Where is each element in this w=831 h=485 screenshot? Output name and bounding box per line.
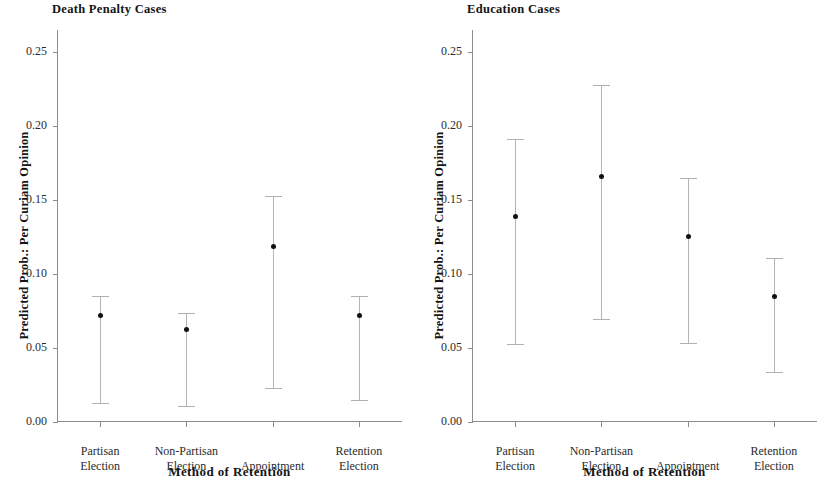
- point-estimate: [184, 327, 189, 332]
- y-axis-label: Predicted Prob.: Per Curiam Opinion: [432, 116, 447, 356]
- y-axis-tick-label: 0.15: [441, 192, 462, 207]
- x-axis-tick: [100, 422, 101, 427]
- y-axis-tick: 0.00: [53, 422, 58, 423]
- y-axis-tick: 0.20: [53, 126, 58, 127]
- y-axis-tick-label: 0.05: [441, 340, 462, 355]
- y-axis-tick: 0.20: [468, 126, 473, 127]
- error-bar: [100, 296, 101, 404]
- point-estimate: [686, 234, 691, 239]
- x-axis-tick: [601, 422, 602, 427]
- error-bar-cap-upper: [766, 258, 783, 259]
- y-axis-tick-label: 0.20: [441, 118, 462, 133]
- panel-title: Death Penalty Cases: [0, 2, 467, 17]
- error-bar: [688, 178, 689, 344]
- error-bar-cap-upper: [507, 139, 524, 140]
- x-axis-tick-label-line1: Non-Partisan: [546, 444, 656, 459]
- point-estimate: [513, 214, 518, 219]
- point-estimate: [98, 313, 103, 318]
- plot-area: 0.000.050.100.150.200.25PartisanElection…: [472, 30, 817, 422]
- y-axis-tick-label: 0.20: [26, 118, 47, 133]
- point-estimate: [271, 244, 276, 249]
- x-axis-tick-label-line1: Retention: [304, 444, 414, 459]
- y-axis-tick: 0.05: [53, 348, 58, 349]
- panel-1: Death Penalty CasesPredicted Prob.: Per …: [0, 0, 415, 485]
- error-bar-cap-lower: [351, 400, 368, 401]
- panel-title: Education Cases: [415, 2, 831, 17]
- error-bar: [601, 85, 602, 320]
- y-axis-tick: 0.05: [468, 348, 473, 349]
- y-axis-tick-label: 0.10: [441, 266, 462, 281]
- x-axis-line: [57, 421, 402, 422]
- y-axis-tick: 0.25: [468, 52, 473, 53]
- panel-2: Education CasesPredicted Prob.: Per Curi…: [415, 0, 830, 485]
- y-axis-tick: 0.10: [468, 274, 473, 275]
- x-axis-tick: [515, 422, 516, 427]
- x-axis-label: Method of Retention: [57, 464, 402, 480]
- error-bar: [273, 196, 274, 390]
- y-axis-tick: 0.15: [53, 200, 58, 201]
- error-bar-cap-lower: [178, 406, 195, 407]
- error-bar-cap-upper: [265, 196, 282, 197]
- y-axis-tick-label: 0.00: [441, 414, 462, 429]
- y-axis-tick-label: 0.25: [26, 44, 47, 59]
- error-bar-cap-upper: [351, 296, 368, 297]
- y-axis-tick-label: 0.05: [26, 340, 47, 355]
- error-bar-cap-upper: [178, 313, 195, 314]
- error-bar-cap-lower: [265, 388, 282, 389]
- x-axis-tick: [186, 422, 187, 427]
- plot-area: 0.000.050.100.150.200.25PartisanElection…: [57, 30, 402, 422]
- y-axis-tick: 0.10: [53, 274, 58, 275]
- y-axis-tick-label: 0.00: [26, 414, 47, 429]
- y-axis-tick-label: 0.10: [26, 266, 47, 281]
- figure-container: Death Penalty CasesPredicted Prob.: Per …: [0, 0, 831, 485]
- y-axis-tick: 0.00: [468, 422, 473, 423]
- y-axis-tick: 0.15: [468, 200, 473, 201]
- x-axis-tick: [273, 422, 274, 427]
- error-bar-cap-lower: [680, 343, 697, 344]
- y-axis-tick: 0.25: [53, 52, 58, 53]
- point-estimate: [599, 174, 604, 179]
- error-bar-cap-upper: [593, 85, 610, 86]
- x-axis-tick: [359, 422, 360, 427]
- x-axis-tick: [688, 422, 689, 427]
- error-bar-cap-lower: [92, 403, 109, 404]
- error-bar: [515, 139, 516, 345]
- error-bar: [774, 258, 775, 373]
- y-axis-tick-label: 0.25: [441, 44, 462, 59]
- x-axis-label: Method of Retention: [472, 464, 817, 480]
- y-axis-label: Predicted Prob.: Per Curiam Opinion: [17, 116, 32, 356]
- x-axis-tick-label-line1: Non-Partisan: [131, 444, 241, 459]
- error-bar-cap-upper: [92, 296, 109, 297]
- x-axis-tick: [774, 422, 775, 427]
- error-bar-cap-lower: [593, 319, 610, 320]
- error-bar-cap-lower: [507, 344, 524, 345]
- x-axis-line: [472, 421, 817, 422]
- y-axis-line: [472, 30, 473, 422]
- point-estimate: [357, 313, 362, 318]
- error-bar: [359, 296, 360, 401]
- y-axis-line: [57, 30, 58, 422]
- point-estimate: [772, 294, 777, 299]
- error-bar-cap-upper: [680, 178, 697, 179]
- error-bar-cap-lower: [766, 372, 783, 373]
- x-axis-tick-label-line1: Retention: [719, 444, 829, 459]
- y-axis-tick-label: 0.15: [26, 192, 47, 207]
